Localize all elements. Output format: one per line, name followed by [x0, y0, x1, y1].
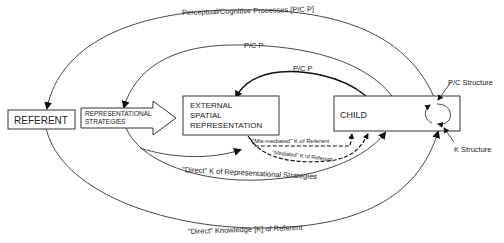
outer-pcp-label: Perceptual/Cognitive Processes [P/C P]	[182, 5, 314, 17]
external-label-line1: EXTERNAL	[190, 101, 233, 110]
external-label-line2: SPATIAL	[190, 111, 222, 120]
outer-pcp-arc	[47, 10, 434, 108]
inner-pcp-label: P/C P	[293, 64, 313, 73]
referent-label: REFERENT	[14, 115, 68, 126]
mis-mediated-label: "Mis-mediated" K of Referent	[252, 138, 330, 144]
k-structure-label: K Structure	[454, 145, 492, 154]
strategies-to-external-arc	[140, 148, 240, 157]
strategies-label-line2: STRATEGIES	[85, 118, 126, 125]
middle-pcp-label: P/C P	[244, 41, 264, 50]
external-label-line3: REPRESENTATION	[190, 121, 262, 130]
direct-referent-label: "Direct" Knowledge [K] of Referent	[188, 223, 304, 236]
direct-strategies-label: "Direct" K of Representational Strategie…	[182, 165, 318, 181]
strategies-label-line1: REPRESENTATIONAL	[85, 110, 152, 117]
diagram-canvas: REFERENT REPRESENTATIONAL STRATEGIES EXT…	[0, 0, 504, 243]
inner-pcp-arc	[236, 72, 366, 97]
child-label: CHILD	[340, 110, 368, 120]
mediated-label: "Mediated" K of Referent	[272, 149, 333, 162]
pc-structure-label: P/C Structure	[448, 78, 493, 87]
direct-referent-arc	[46, 128, 438, 228]
